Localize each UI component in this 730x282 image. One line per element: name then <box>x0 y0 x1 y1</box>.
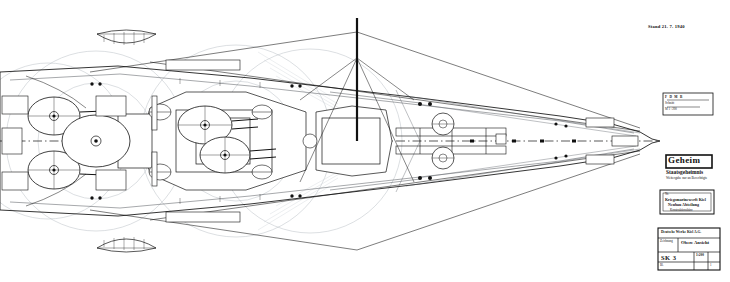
authority-stamp-line1: Nr. <box>665 193 669 196</box>
secret-stamp-line2: Staatsgeheimnis <box>666 170 703 175</box>
small-label-line3: M 1 : 200 <box>665 108 677 111</box>
small-label-line1: F D M B <box>665 96 683 99</box>
secret-stamp-label: Geheim <box>668 156 700 165</box>
drawing-sheet: Stand 21. 7. 1940 Geheim Staatsgeheimnis… <box>0 0 730 282</box>
title-block-blatt-value: 1 <box>710 264 712 267</box>
authority-stamp-line4: Konstruktionsbüro <box>670 209 693 212</box>
annotation-layer <box>0 0 730 282</box>
top-right-date-note: Stand 21. 7. 1940 <box>648 25 685 30</box>
title-block-scale-value: 1:200 <box>696 254 704 257</box>
small-label-line2: Schnitt <box>665 102 674 105</box>
authority-stamp-line3: Neubau Abteilung <box>668 203 699 207</box>
title-block-subject-value: Obere Ansicht <box>681 241 709 246</box>
title-block-drawing-no: SK 3 <box>661 255 677 262</box>
title-block-blatt-label: Bl. <box>660 264 664 267</box>
title-block-left-label: Zeichnung <box>660 240 673 243</box>
title-block-header: Deutsche Werke Kiel A.G. <box>661 231 701 235</box>
secret-stamp-line3: Weitergabe nur an Berechtigte <box>666 177 707 180</box>
